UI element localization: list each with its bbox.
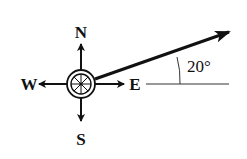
compass-hub <box>79 82 82 85</box>
angle-arc <box>177 57 180 84</box>
compass-vector-diagram: N S W E 20° <box>0 0 247 159</box>
label-north: N <box>75 23 88 42</box>
label-west: W <box>21 75 38 94</box>
compass-rose: N S W E <box>21 23 141 149</box>
label-south: S <box>76 130 85 149</box>
label-east: E <box>129 75 140 94</box>
angle-label: 20° <box>187 57 211 76</box>
